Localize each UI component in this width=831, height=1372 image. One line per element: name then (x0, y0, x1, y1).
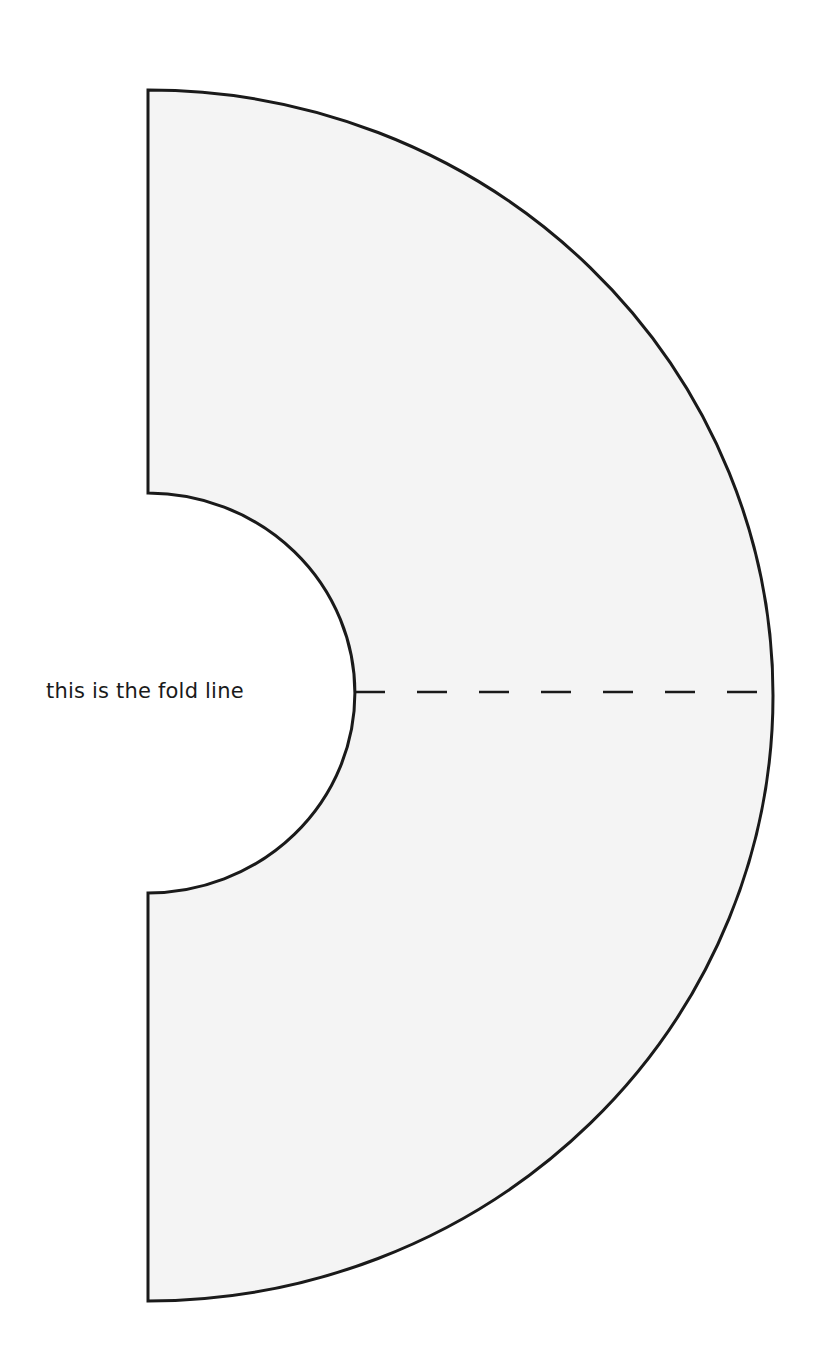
fold-line-label: this is the fold line (46, 676, 244, 706)
